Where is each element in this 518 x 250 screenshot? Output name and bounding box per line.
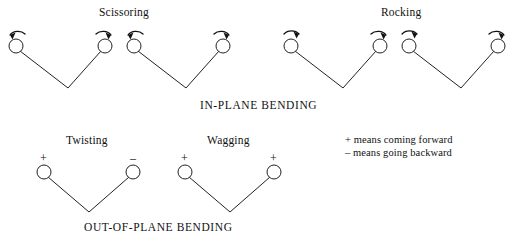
bond-path [413,51,494,88]
sign-wagging-left: + [181,152,188,164]
atom-circle [267,165,281,179]
section-title-out-of-plane-bending: OUT-OF-PLANE BENDING [84,221,233,233]
bond-path [189,177,270,212]
legend-line-minus: – means going backward [345,147,452,158]
rotation-arrow-clockwise-icon [489,31,504,39]
sign-wagging-right: + [270,152,277,164]
rotation-arrow-clockwise-icon [402,31,417,39]
diagram-canvas: Scissoring Rocking [0,0,518,250]
molecule-wagging [0,0,320,250]
atom-circle [402,39,416,53]
legend-line-plus: + means coming forward [345,134,453,145]
atom-circle [491,39,505,53]
atom-circle [178,165,192,179]
